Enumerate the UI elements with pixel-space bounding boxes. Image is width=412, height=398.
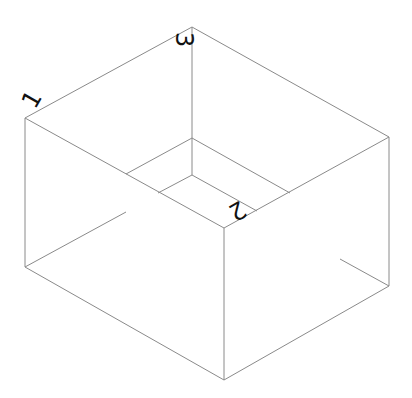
label-1: 1	[16, 86, 48, 113]
outer-edges	[25, 27, 389, 380]
vertex-labels: 1 2 3	[16, 32, 251, 227]
edge-top-front-left	[25, 118, 224, 228]
label-3: 3	[170, 32, 198, 47]
edge-bottom-left	[25, 267, 224, 380]
edge-bottom-right	[224, 286, 389, 380]
inner-edges	[25, 138, 389, 286]
edge-top-back-left	[25, 27, 192, 118]
box-diagram: 1 2 3	[0, 0, 412, 398]
edge-top-back-right	[192, 27, 389, 137]
inner-upper-left	[126, 138, 192, 174]
inner-lower-left	[158, 175, 192, 193]
inner-lower-right	[192, 175, 257, 211]
edge-bottom-back-left	[25, 212, 126, 267]
label-2: 2	[224, 195, 251, 227]
inner-upper-right	[192, 138, 290, 193]
edge-bottom-back-right	[340, 259, 389, 286]
